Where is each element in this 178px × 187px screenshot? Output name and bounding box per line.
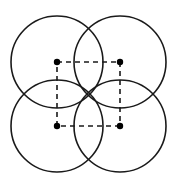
- geometry-diagram: [0, 0, 178, 187]
- dot-bottom-left: [54, 123, 60, 129]
- dot-bottom-right: [117, 123, 123, 129]
- dot-top-right: [117, 59, 123, 65]
- figure-container: [0, 0, 178, 187]
- dot-top-left: [54, 59, 60, 65]
